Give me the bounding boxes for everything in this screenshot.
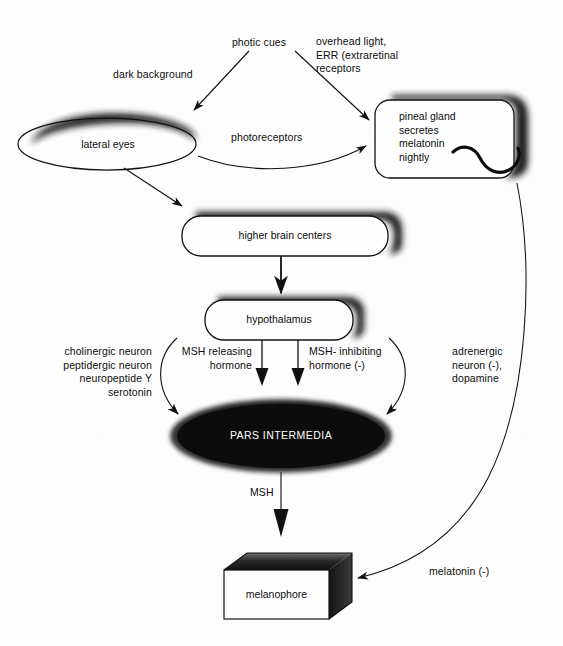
edge-label-dark-background: dark background [113, 68, 231, 82]
edge-label-photic-cues: photic cues [211, 36, 307, 50]
node-label-pineal-gland: pineal gland secretes melatonin nightly [399, 110, 507, 164]
edge-eyes-to-pineal [198, 146, 366, 169]
node-label-lateral-eyes: lateral eyes [58, 138, 158, 152]
edge-label-photoreceptors: photoreceptors [231, 131, 331, 145]
edge-label-msh-inhibiting: MSH- inhibiting hormone (-) [309, 345, 413, 372]
node-melanophore-shape [224, 553, 352, 619]
edge-label-left-neurons: cholinergic neuron peptidergic neuron ne… [22, 345, 152, 399]
node-label-higher-brain-centers: higher brain centers [206, 229, 364, 243]
edge-label-adrenergic: adrenergic neuron (-), dopamine [452, 345, 546, 386]
edge-label-melatonin-negative: melatonin (-) [429, 565, 519, 579]
node-label-melanophore: melanophore [226, 588, 327, 602]
edge-msh-releasing-arrow [256, 340, 269, 386]
edge-label-msh: MSH [250, 486, 294, 500]
edge-pars-to-melanophore [274, 472, 289, 537]
node-label-pars-intermedia: PARS INTERMEDIA [201, 429, 361, 443]
edge-label-overhead-light: overhead light, ERR (extraretinal recept… [316, 35, 448, 76]
edge-eyes-to-brain [124, 168, 182, 206]
edge-label-msh-releasing: MSH releasing hormone [158, 345, 252, 372]
diagram-canvas: lateral eyes pineal gland secretes melat… [0, 0, 563, 646]
node-label-hypothalamus: hypothalamus [229, 313, 329, 327]
edge-msh-inhibiting-arrow [292, 340, 305, 386]
